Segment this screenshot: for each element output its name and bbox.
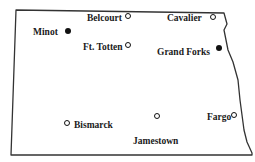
filled-dot-icon: [216, 45, 222, 51]
open-circle-icon: [231, 112, 237, 118]
city-label-jamestown: Jamestown: [133, 137, 178, 147]
state-outline-map: [0, 0, 255, 162]
city-label-belcourt: Belcourt: [87, 14, 122, 24]
filled-dot-icon: [65, 28, 71, 34]
city-label-cavalier: Cavalier: [167, 14, 202, 24]
open-circle-icon: [154, 113, 160, 119]
open-circle-icon: [210, 14, 216, 20]
city-label-grand-forks: Grand Forks: [157, 48, 210, 58]
open-circle-icon: [125, 13, 131, 19]
city-label-minot: Minot: [33, 28, 58, 38]
city-label-bismarck: Bismarck: [74, 121, 113, 131]
city-label-fargo: Fargo: [207, 113, 231, 123]
open-circle-icon: [125, 42, 131, 48]
open-circle-icon: [64, 120, 70, 126]
city-label-ft-totten: Ft. Totten: [83, 43, 123, 53]
